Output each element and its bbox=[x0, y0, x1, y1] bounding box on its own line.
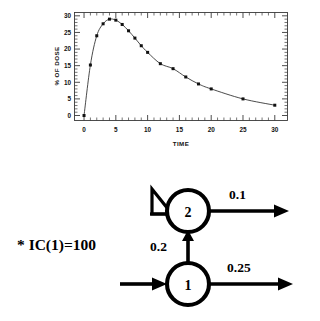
series-markers bbox=[83, 18, 277, 117]
x-tick-10: 10 bbox=[144, 126, 152, 133]
data-point bbox=[146, 51, 149, 54]
rate-one-to-two-label: 0.2 bbox=[150, 239, 167, 254]
compartment-model-panel: * IC(1)=100 2 0.1 0.2 1 0.25 bbox=[0, 168, 320, 321]
data-point bbox=[172, 67, 175, 70]
data-point bbox=[89, 64, 92, 67]
rate-one-out-label: 0.25 bbox=[227, 260, 251, 275]
y-tick-30: 30 bbox=[64, 12, 72, 19]
data-point bbox=[159, 62, 162, 65]
outflow-2-arrowhead bbox=[274, 205, 289, 218]
rate-two-out-label: 0.1 bbox=[229, 187, 246, 202]
axis-ticks bbox=[75, 13, 288, 121]
data-point bbox=[140, 44, 143, 47]
compartment-1-label: 1 bbox=[185, 278, 192, 293]
data-point bbox=[108, 18, 111, 21]
x-tick-25: 25 bbox=[239, 126, 247, 133]
data-point bbox=[210, 87, 213, 90]
dose-time-chart: 051015202530 051015202530 TIME % OF DOSE bbox=[0, 0, 320, 168]
data-point bbox=[121, 23, 124, 26]
data-point bbox=[273, 104, 276, 107]
x-axis-label: TIME bbox=[173, 140, 190, 147]
plot-frame bbox=[75, 13, 288, 121]
data-point bbox=[95, 34, 98, 37]
x-tick-30: 30 bbox=[271, 126, 279, 133]
dose-time-chart-panel: 051015202530 051015202530 TIME % OF DOSE bbox=[0, 0, 320, 168]
series-line bbox=[84, 19, 275, 116]
data-point bbox=[197, 82, 200, 85]
data-point bbox=[127, 29, 130, 32]
x-tick-15: 15 bbox=[176, 126, 184, 133]
data-point bbox=[114, 19, 117, 22]
x-tick-labels: 051015202530 bbox=[82, 126, 279, 133]
y-tick-5: 5 bbox=[67, 95, 71, 102]
x-tick-20: 20 bbox=[208, 126, 216, 133]
y-tick-15: 15 bbox=[64, 62, 72, 69]
compartment-model-diagram: * IC(1)=100 2 0.1 0.2 1 0.25 bbox=[0, 168, 320, 321]
initial-condition-note: * IC(1)=100 bbox=[17, 236, 96, 254]
data-point bbox=[184, 75, 187, 78]
y-tick-20: 20 bbox=[64, 45, 72, 52]
y-tick-10: 10 bbox=[64, 79, 72, 86]
data-point bbox=[83, 114, 86, 117]
y-tick-25: 25 bbox=[64, 29, 72, 36]
x-tick-0: 0 bbox=[82, 126, 86, 133]
data-point bbox=[102, 22, 105, 25]
x-tick-5: 5 bbox=[114, 126, 118, 133]
y-axis-label: % OF DOSE bbox=[53, 46, 60, 85]
compartment-2-label: 2 bbox=[185, 205, 192, 220]
y-tick-0: 0 bbox=[67, 112, 71, 119]
data-point bbox=[241, 97, 244, 100]
y-tick-labels: 051015202530 bbox=[64, 12, 72, 119]
input-arrow-arrowhead bbox=[152, 278, 167, 291]
outflow-1-arrowhead bbox=[278, 278, 293, 291]
data-point bbox=[133, 37, 136, 40]
